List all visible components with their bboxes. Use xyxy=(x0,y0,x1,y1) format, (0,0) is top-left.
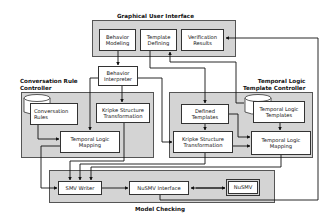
connector-arrows xyxy=(0,0,334,222)
